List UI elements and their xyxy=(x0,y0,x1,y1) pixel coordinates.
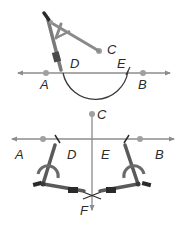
point-c-bottom xyxy=(89,111,95,117)
label-a-top: A xyxy=(39,77,49,92)
label-c-bottom: C xyxy=(97,107,107,122)
bottom-figure: A B C D E F xyxy=(12,107,174,218)
point-b-top xyxy=(140,70,146,76)
construction-diagram: A B C D E xyxy=(0,0,187,225)
label-d-bottom: D xyxy=(67,147,76,162)
label-e-bottom: E xyxy=(101,147,110,162)
label-a-bottom: A xyxy=(14,147,24,162)
label-d-top: D xyxy=(70,56,79,71)
top-figure: A B C D E xyxy=(18,13,170,99)
label-b-top: B xyxy=(138,77,147,92)
label-b-bottom: B xyxy=(155,147,164,162)
label-f-bottom: F xyxy=(80,203,89,218)
point-a-bottom xyxy=(40,136,46,142)
point-b-bottom xyxy=(137,136,143,142)
point-a-top xyxy=(43,70,49,76)
arc-de xyxy=(63,71,128,99)
label-c-top: C xyxy=(107,42,117,57)
label-e-top: E xyxy=(117,56,126,71)
